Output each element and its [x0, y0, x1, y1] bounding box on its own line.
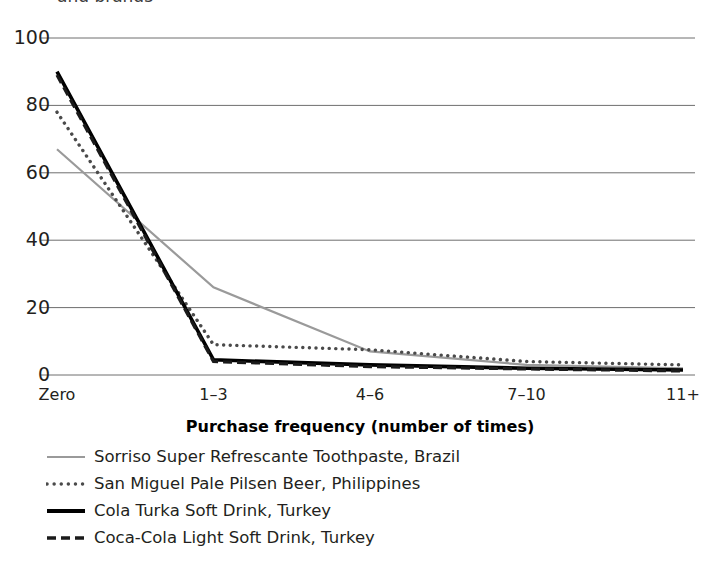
x-axis-title: Purchase frequency (number of times) — [0, 417, 720, 436]
legend-marker-icon — [46, 450, 86, 464]
series-line — [57, 112, 683, 365]
y-axis-tick-label: 0 — [4, 365, 50, 384]
legend-item[interactable]: San Miguel Pale Pilsen Beer, Philippines — [0, 470, 720, 497]
series-line — [57, 149, 683, 368]
y-axis-tick-label: 80 — [4, 95, 50, 114]
legend-label: San Miguel Pale Pilsen Beer, Philippines — [94, 474, 420, 493]
y-axis-tick-label: 100 — [4, 28, 50, 47]
y-axis-tick-label: 20 — [4, 298, 50, 317]
y-axis-tick-label: 60 — [4, 163, 50, 182]
legend-marker-icon — [46, 477, 86, 491]
legend-label: Sorriso Super Refrescante Toothpaste, Br… — [94, 447, 460, 466]
legend-label: Coca-Cola Light Soft Drink, Turkey — [94, 528, 375, 547]
x-axis-tick-label: 1–3 — [199, 386, 227, 404]
legend-item[interactable]: Cola Turka Soft Drink, Turkey — [0, 497, 720, 524]
legend-item[interactable]: Sorriso Super Refrescante Toothpaste, Br… — [0, 443, 720, 470]
series-line — [57, 75, 683, 371]
legend-marker-icon — [46, 504, 86, 518]
series-line — [57, 72, 683, 370]
x-axis-tick-label: 7–10 — [507, 386, 546, 404]
x-axis-tick-label: Zero — [39, 386, 76, 404]
x-axis-tick-label: 4–6 — [356, 386, 384, 404]
y-axis-tick-label: 40 — [4, 230, 50, 249]
plot-svg — [0, 0, 720, 400]
x-axis-tick-label: 11+ — [666, 386, 700, 404]
legend-item[interactable]: Coca-Cola Light Soft Drink, Turkey — [0, 524, 720, 551]
legend-label: Cola Turka Soft Drink, Turkey — [94, 501, 331, 520]
legend-marker-icon — [46, 531, 86, 545]
chart-figure: and brands 020406080100 Zero1–34–67–1011… — [0, 0, 720, 563]
plot-area — [0, 0, 720, 400]
chart-legend: Sorriso Super Refrescante Toothpaste, Br… — [0, 443, 720, 551]
